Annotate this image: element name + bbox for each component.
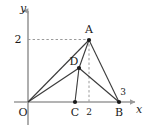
- point-b-marker: [117, 100, 121, 104]
- point-label-a: A: [85, 24, 93, 35]
- coordinate-geometry-figure: y x O 2 2 3 A D C B: [0, 0, 150, 129]
- x-tick-label-2: 2: [86, 108, 92, 117]
- x-tick-label-3: 3: [120, 88, 126, 97]
- segment-a-b: [89, 40, 119, 102]
- point-c-marker: [73, 100, 77, 104]
- segment-o-a: [28, 40, 89, 102]
- y-tick-label-2: 2: [15, 34, 22, 45]
- y-axis-label: y: [20, 3, 26, 14]
- segment-o-d: [28, 68, 79, 102]
- point-label-d: D: [70, 56, 79, 67]
- x-axis-label: x: [136, 104, 142, 115]
- segment-d-b: [79, 68, 119, 102]
- point-label-b: B: [115, 107, 123, 118]
- point-label-c: C: [71, 107, 79, 118]
- segment-d-c: [75, 68, 79, 102]
- segment-d-a: [79, 40, 89, 68]
- point-a-marker: [87, 38, 91, 42]
- origin-label: O: [18, 107, 27, 118]
